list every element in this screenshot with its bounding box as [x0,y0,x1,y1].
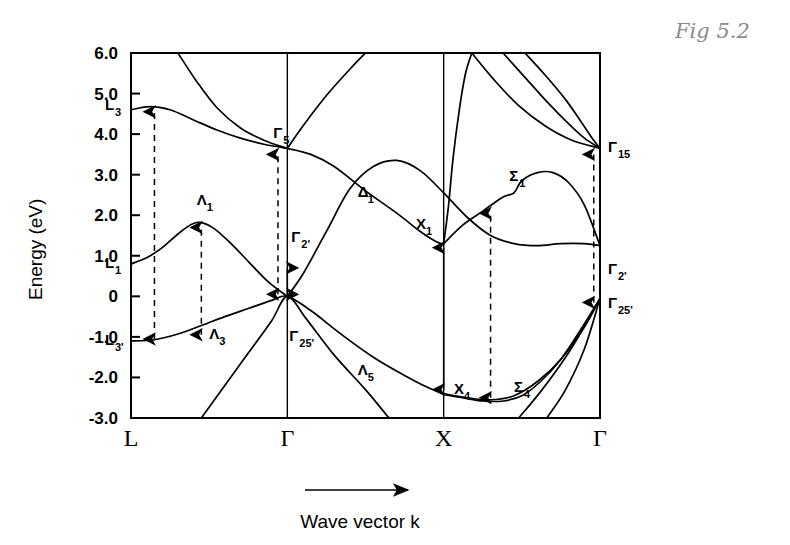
figure-annotation: Fig 5.2 [674,19,750,43]
band-label-text: L [105,254,114,271]
band-label-text: Λ [209,325,219,342]
x-tick-label-X: X [435,425,452,451]
x-tick-label-Γ: Γ [593,425,607,451]
figure-canvas: 6.05.04.03.02.01.00-1.0-2.0-3.0LΓXΓL3L1L… [0,0,790,545]
critical-point-label-0: L3 [105,96,121,118]
band-label-text: Γ [273,124,282,141]
critical-point-label-9: Δ1 [358,183,374,205]
band-label-subscript: 15 [618,148,630,160]
band-label-subscript: 3 [219,335,225,347]
band-curve-conduction-x-peak [444,53,472,244]
band-label-subscript: 4 [524,388,531,400]
band-label-text: L [105,96,114,113]
band-label-subscript: 1 [519,177,525,189]
band-label-text: X [454,380,464,397]
band-label-text: Γ [608,294,617,311]
y-tick-label-2: 4.0 [94,125,118,144]
critical-point-label-8: Λ5 [358,361,374,383]
band-label-text: L [105,331,114,348]
critical-point-label-6: Λ1 [197,191,213,213]
transition-arrows-group [154,112,593,398]
band-curve-conduction-descend-2 [503,53,600,148]
band-label-text: Γ [291,228,300,245]
critical-point-label-14: Γ15 [608,138,630,160]
band-label-subscript: 5 [283,134,289,146]
band-label-subscript: 25' [299,337,314,349]
band-label-text: Σ [514,378,523,395]
band-curve-conduction-rise-right-of-gamma [287,53,365,148]
band-curve-valence-band-4 [547,298,600,418]
band-label-subscript: 25' [618,304,633,316]
y-tick-label-6: 0 [109,287,118,306]
band-curve-conduction-descend-1 [472,53,600,148]
x-axis-title: Wave vector k [300,511,420,532]
band-label-text: X [416,215,426,232]
band-label-subscript: 1 [368,193,374,205]
critical-point-label-4: Γ2' [291,228,310,250]
band-label-text: Γ [289,327,298,344]
band-curve-conduction-steep-left [178,53,287,148]
band-label-text: Σ [509,167,518,184]
band-label-text: Λ [358,361,368,378]
band-label-text: Γ [608,138,617,155]
band-label-subscript: 1 [207,201,213,213]
band-label-text: Λ [197,191,207,208]
x-tick-label-Γ: Γ [280,425,294,451]
critical-point-label-16: Γ25' [608,294,633,316]
band-label-text: Γ [608,260,617,277]
band-label-subscript: 2' [301,238,310,250]
x-tick-label-L: L [124,425,139,451]
critical-point-label-1: L1 [105,254,121,276]
band-label-subscript: 3' [115,341,124,353]
y-tick-label-3: 3.0 [94,166,118,185]
critical-point-label-5: Γ25' [289,327,314,349]
critical-point-label-7: Λ3 [209,325,225,347]
band-label-subscript: 4 [464,390,471,402]
y-tick-label-4: 2.0 [94,206,118,225]
y-tick-label-8: -2.0 [89,368,118,387]
band-label-subscript: 1 [115,264,121,276]
band-curve-conduction-descend-3 [525,53,600,148]
critical-point-label-13: Σ4 [514,378,531,400]
y-tick-label-9: -3.0 [89,409,118,428]
band-label-subscript: 1 [426,225,432,237]
y-tick-label-0: 6.0 [94,44,118,63]
band-label-subscript: 2' [618,270,627,282]
band-label-subscript: 3 [115,106,121,118]
y-axis-title: Energy (eV) [25,199,46,300]
critical-point-label-15: Γ2' [608,260,627,282]
band-label-subscript: 5 [368,371,374,383]
band-structure-figure: 6.05.04.03.02.01.00-1.0-2.0-3.0LΓXΓL3L1L… [0,0,790,545]
critical-point-label-12: Σ1 [509,167,525,189]
